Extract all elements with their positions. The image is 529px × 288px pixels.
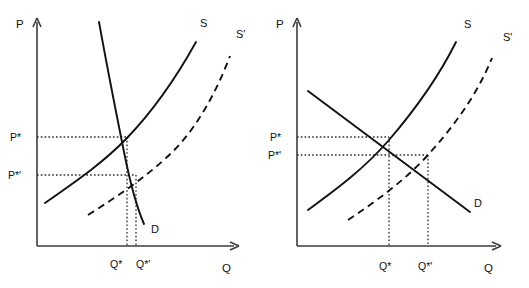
right-x-axis-label: Q	[484, 262, 493, 274]
right-qty1-label: Q*	[379, 260, 391, 272]
figure-canvas: P Q S S' D P* P*' Q* Q*'	[0, 0, 529, 288]
left-supply-shifted-label: S'	[236, 28, 245, 40]
right-supply-label: S	[464, 18, 471, 30]
right-panel: P Q S S' D P* P*' Q* Q*'	[268, 18, 512, 274]
right-qty2-label: Q*'	[418, 260, 432, 272]
right-y-axis-label: P	[276, 18, 284, 30]
left-supply-curve	[45, 42, 196, 203]
right-supply-shifted-label: S'	[503, 31, 512, 43]
right-supply-shifted-curve	[348, 58, 492, 220]
left-price1-label: P*	[10, 131, 21, 143]
right-demand-label: D	[474, 197, 482, 209]
left-panel: P Q S S' D P* P*' Q* Q*'	[8, 17, 245, 274]
left-demand-label: D	[151, 223, 159, 235]
right-price2-label: P*'	[268, 149, 281, 161]
left-supply-label: S	[200, 17, 207, 29]
right-price1-label: P*	[270, 131, 281, 143]
supply-demand-figure: P Q S S' D P* P*' Q* Q*'	[0, 0, 529, 288]
left-x-axis-label: Q	[222, 262, 231, 274]
left-qty1-label: Q*	[110, 258, 122, 270]
right-demand-curve	[308, 91, 470, 212]
left-price2-label: P*'	[8, 169, 21, 181]
left-qty2-label: Q*'	[136, 258, 150, 270]
left-y-axis-label: P	[16, 18, 24, 30]
